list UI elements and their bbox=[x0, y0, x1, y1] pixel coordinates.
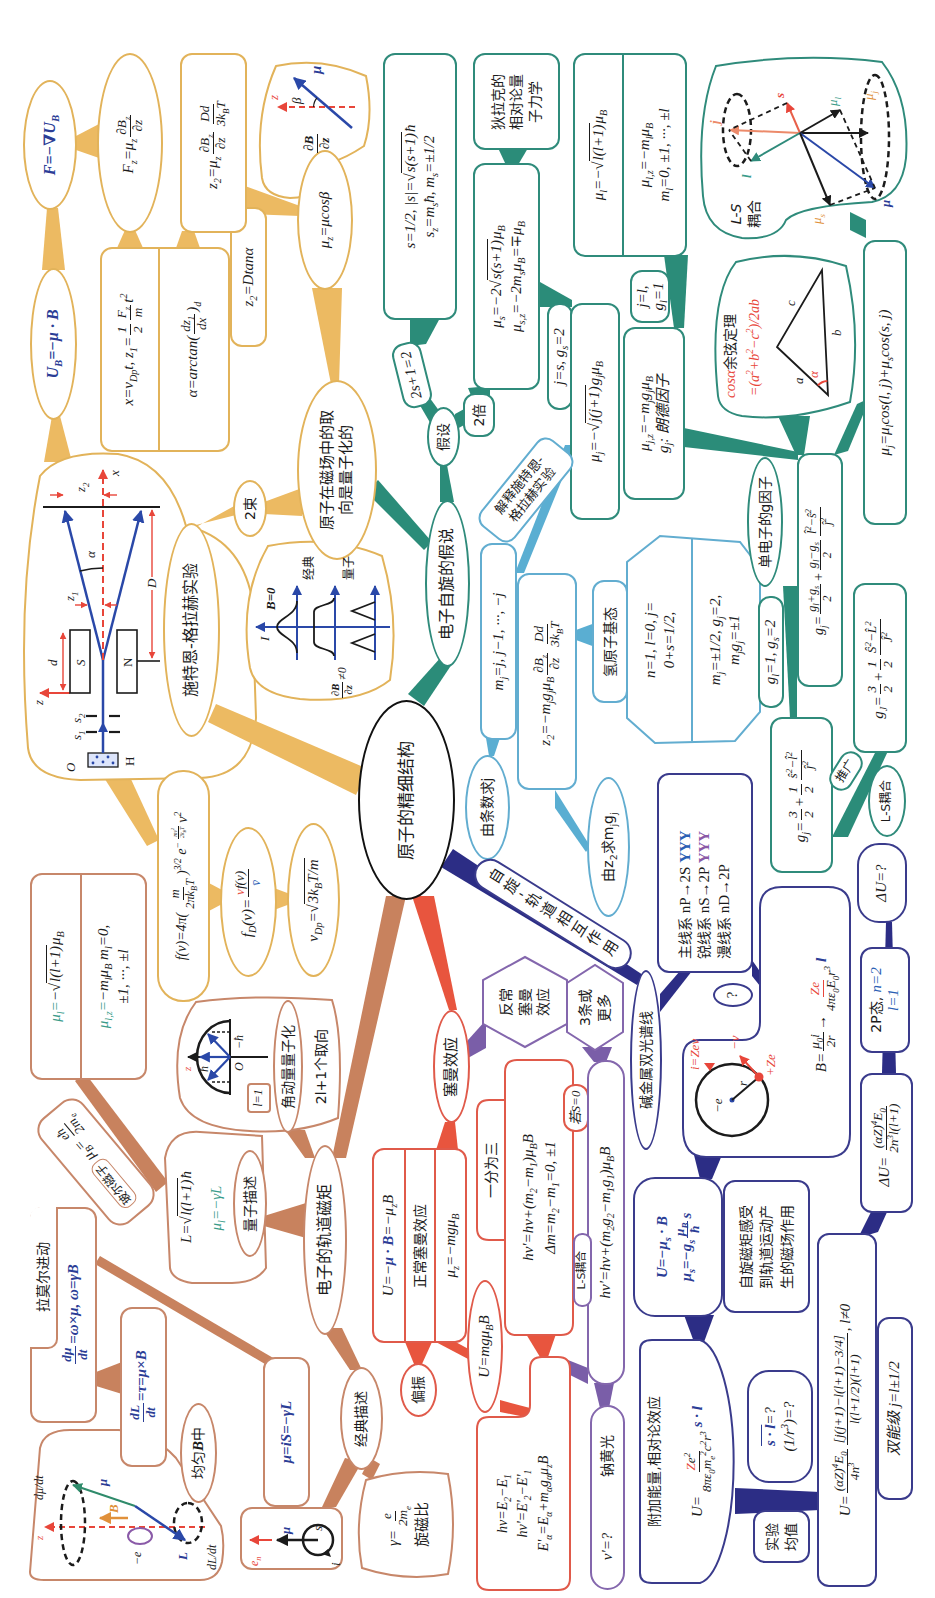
l-vector bbox=[751, 133, 800, 161]
diagram-layer bbox=[0, 0, 935, 1598]
apparatus-label-z1: z1 bbox=[63, 592, 76, 601]
numerator: ∂B bbox=[302, 134, 318, 153]
ls-diagram-label: L-S耦合 bbox=[727, 200, 763, 228]
hydrogen-source bbox=[88, 753, 118, 767]
atom-dot bbox=[96, 756, 99, 759]
apparatus-label-z2: z2 bbox=[74, 483, 87, 492]
cosine-title: cosα余弦定理 bbox=[723, 314, 738, 398]
graph-label-quantum: 量子 bbox=[343, 556, 355, 580]
hemisphere-label-hbar: ħ bbox=[198, 1066, 210, 1072]
precession-label-mu: μ bbox=[96, 1479, 109, 1486]
orientation-arrow bbox=[208, 1057, 230, 1080]
loop-label-mu: μ bbox=[279, 1527, 292, 1534]
electron-orbit-loop bbox=[128, 1528, 152, 1544]
dash bbox=[830, 188, 875, 205]
precession-label-z: z bbox=[34, 1536, 45, 1540]
cosine-law-name: 余弦定理 bbox=[722, 314, 738, 370]
ls-label-s: s bbox=[773, 93, 786, 98]
apparatus-label-z: z bbox=[32, 700, 45, 705]
ls-label-mu: μ bbox=[879, 200, 892, 207]
dash bbox=[729, 103, 787, 130]
atom-dot bbox=[112, 762, 115, 765]
alpha-arc bbox=[80, 568, 103, 571]
apparatus-label-slit-1: s1 bbox=[70, 731, 83, 740]
stern-gerlach-apparatus bbox=[40, 470, 160, 767]
orientation-arrow bbox=[208, 1034, 230, 1057]
precession-label-L: L bbox=[176, 1552, 189, 1560]
apparatus-label-slit-2: s2 bbox=[70, 714, 83, 723]
ls-label-line-2: 耦合 bbox=[745, 200, 763, 228]
atom-dot bbox=[107, 756, 110, 759]
loop-label-normal: en bbox=[248, 1557, 260, 1566]
L-precession-ellipse bbox=[174, 1503, 202, 1543]
precession-label-B: B bbox=[107, 1504, 120, 1513]
precession-label-electron: −e bbox=[131, 1552, 143, 1565]
hemisphere-label-origin: O bbox=[233, 1062, 245, 1071]
triangle-angle-alpha: α bbox=[807, 371, 820, 378]
apparatus-label-south: S bbox=[74, 660, 87, 667]
fraction: ∂B∂z bbox=[330, 682, 354, 698]
lower-beam bbox=[103, 511, 141, 660]
loop-label-area: s bbox=[311, 1526, 324, 1531]
graph-label-gradient: ∂B∂z≠0 bbox=[330, 667, 354, 700]
circle-label-radius: r bbox=[736, 1081, 749, 1086]
circle-label-current: i=Zev bbox=[688, 1039, 701, 1070]
apparatus-label-D: D bbox=[145, 577, 158, 590]
denominator: ∂z bbox=[343, 683, 355, 696]
j-vector bbox=[730, 130, 800, 133]
orbiting-charge-diagram bbox=[696, 1056, 768, 1136]
beta-label-beta: β bbox=[290, 98, 303, 104]
beam-direction-arrow bbox=[98, 722, 108, 732]
numerator: ∂B bbox=[330, 682, 343, 698]
apparatus-label-x: x bbox=[108, 470, 121, 476]
graph-label-b-zero: B=0 bbox=[264, 587, 277, 610]
apparatus-label-origin: O bbox=[64, 763, 77, 772]
atom-dot bbox=[102, 761, 105, 764]
circle-label-nucleus: +Ze bbox=[764, 1054, 777, 1076]
hemisphere-label-neg-hbar: −ħ bbox=[233, 1035, 245, 1049]
loop-label-current: i bbox=[329, 1562, 342, 1566]
ls-label-mu-j: μj bbox=[862, 91, 875, 100]
ls-label-mu-l: μl bbox=[826, 97, 839, 106]
dash bbox=[729, 130, 751, 161]
atom-dot bbox=[92, 762, 95, 765]
denominator: ∂z bbox=[318, 136, 333, 152]
apparatus-label-hydrogen: H bbox=[123, 757, 136, 766]
ls-label-line-1: L-S bbox=[727, 204, 745, 225]
parallelogram-dashes bbox=[729, 103, 875, 205]
beta-label-gradient: ∂B∂z bbox=[302, 132, 332, 155]
apparatus-label-d: d bbox=[46, 660, 59, 667]
apparatus-label-north: N bbox=[121, 658, 134, 667]
alpha-angle-arc bbox=[818, 381, 828, 385]
cosine-alpha: cosα bbox=[722, 370, 738, 398]
graph-label-intensity: I bbox=[258, 637, 271, 641]
hemisphere-quantization-diagram bbox=[188, 1019, 268, 1095]
precession-label-dmu: dμ/dt bbox=[33, 1475, 45, 1500]
ls-label-j: j bbox=[708, 120, 721, 124]
triangle-side-c: c bbox=[784, 300, 797, 306]
cosine-formula: =(a2+b2−c2)/2ab bbox=[748, 299, 762, 396]
beta-arc bbox=[314, 98, 317, 107]
mind-map-canvas: F=−∇UB UB=−μ · B Fz=μz∂Bz∂z x=vDpt, z1=1… bbox=[0, 0, 935, 1598]
hemisphere-label-z: z bbox=[182, 1067, 193, 1071]
fraction: ∂B∂z bbox=[302, 134, 332, 153]
triangle-side-b: b bbox=[830, 330, 843, 337]
apparatus-label-alpha: α bbox=[84, 551, 97, 558]
ls-label-l: l bbox=[740, 174, 753, 178]
beta-label-mu: μ bbox=[309, 66, 324, 74]
circle-label-electron: −e bbox=[711, 1098, 724, 1113]
triangle-side-a: a bbox=[792, 378, 805, 385]
graph-label-classical: 经典 bbox=[303, 556, 315, 580]
beta-label-z: z bbox=[267, 95, 280, 100]
ls-label-mu-s: μs bbox=[810, 214, 823, 224]
mu-precession-ellipse bbox=[61, 1481, 85, 1565]
gradient-nonzero: ≠0 bbox=[336, 667, 348, 680]
s-vector bbox=[787, 103, 800, 133]
precession-label-dL: dL/dt bbox=[206, 1545, 218, 1570]
circle-label-velocity: −v bbox=[728, 1035, 741, 1050]
mu-l-vector bbox=[800, 110, 840, 133]
